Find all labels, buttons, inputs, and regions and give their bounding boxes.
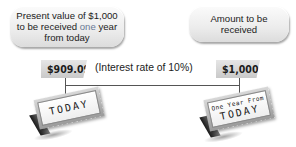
timeline-line [65,85,240,86]
callout-text: to be received [17,21,80,32]
callout-text: year [96,21,117,32]
sign-face: TODAY [37,90,101,126]
callout-line-1: Present value of $1,000 [16,10,117,21]
sign-frame: One Year From TODAY [203,86,274,131]
callout-line-3: from today [44,32,89,43]
sign-face: One Year From TODAY [207,90,271,128]
callout-line-1: Amount to be [210,13,267,24]
today-sign: TODAY [34,86,105,129]
callout-line-2: received [221,24,257,35]
present-value-tag: $909.09 [41,60,87,78]
interest-rate-label: (Interest rate of 10%) [95,62,193,73]
amount-received-callout: Amount to be received [189,6,289,42]
future-amount-tag: $1,000 [216,60,260,78]
sign-frame: TODAY [34,86,105,129]
callout-emphasis: one [80,21,96,32]
one-year-from-today-sign: One Year From TODAY [203,86,274,131]
callout-line-2: to be received one year [17,21,117,32]
present-value-callout: Present value of $1,000 to be received o… [10,6,124,47]
